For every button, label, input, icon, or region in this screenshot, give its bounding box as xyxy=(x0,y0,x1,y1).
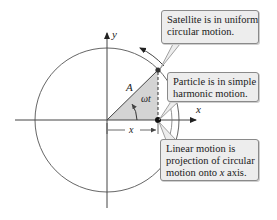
satellite-callout: Satellite is in uniform circular motion. xyxy=(161,10,259,44)
linear-callout-line-3-tail: axis. xyxy=(224,167,246,178)
y-axis-label: y xyxy=(111,28,117,40)
particle-callout-line-1: Particle is in simple xyxy=(173,76,253,88)
satellite-callout-line-2: circular motion. xyxy=(167,26,253,38)
linear-callout-line-2: projection of circular xyxy=(166,155,253,167)
particle-callout-pointer xyxy=(159,100,180,120)
angle-label: ωt xyxy=(141,93,151,104)
satellite-point xyxy=(155,67,160,72)
linear-callout-pointer xyxy=(159,122,176,140)
satellite-callout-line-1: Satellite is in uniform xyxy=(167,14,253,26)
linear-motion-callout: Linear motion is projection of circular … xyxy=(160,139,259,181)
particle-callout: Particle is in simple harmonic motion. xyxy=(167,72,259,102)
linear-callout-line-3: motion onto x axis. xyxy=(166,167,253,179)
linear-callout-line-1: Linear motion is xyxy=(166,143,253,155)
displacement-label: x xyxy=(128,124,134,135)
particle-callout-line-2: harmonic motion. xyxy=(173,88,253,100)
amplitude-label: A xyxy=(125,81,133,93)
x-axis-label: x xyxy=(195,103,201,115)
satellite-callout-pointer xyxy=(160,44,180,69)
linear-callout-line-3-text: motion onto xyxy=(166,167,220,178)
